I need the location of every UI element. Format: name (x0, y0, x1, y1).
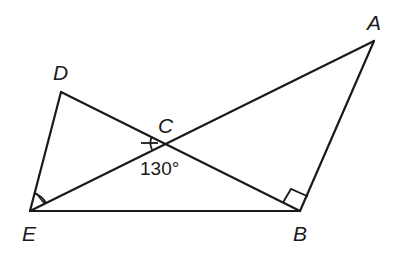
segment-ab (300, 41, 374, 211)
diagram-canvas: A B C D E 130° (0, 0, 414, 255)
label-a: A (365, 11, 381, 34)
label-e: E (22, 222, 37, 245)
geometry-diagram: A B C D E 130° (0, 0, 414, 255)
label-d: D (53, 61, 68, 84)
segment-db (61, 92, 300, 211)
label-b: B (293, 222, 307, 245)
angle-label-130: 130° (140, 158, 179, 179)
label-c: C (158, 114, 174, 137)
segment-ea (30, 41, 374, 211)
